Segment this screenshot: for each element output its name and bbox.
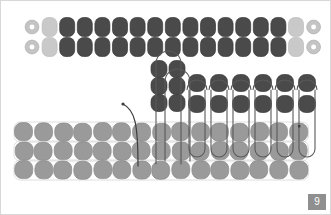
bottom-band-unit [54,142,72,160]
top-band-unit [95,18,110,37]
page-number-badge: 9 [308,194,326,210]
bottom-band-unit [270,123,288,141]
bottom-band-unit [231,161,249,179]
bottom-band-unit [133,161,151,179]
top-band-unit [95,38,110,57]
top-band-unit [289,18,304,37]
top-band-unit [148,18,163,37]
top-band-unit [289,38,304,57]
top-band-unit [77,18,92,37]
bottom-band-unit [54,161,72,179]
top-band-unit [113,38,128,57]
top-band-unit [42,18,57,37]
ring-unit-hole [30,25,35,30]
bottom-band-unit [55,123,73,141]
top-band-unit [77,38,92,57]
bottom-band-unit [94,123,112,141]
bottom-band-unit [74,161,92,179]
ring-unit-hole [311,45,316,50]
top-band-units [25,18,320,57]
bottom-band-unit [113,142,131,160]
bottom-band-unit [15,123,33,141]
top-band-unit [60,18,75,37]
bottom-band-unit [152,161,170,179]
ring-unit-hole [30,45,35,50]
bottom-band-unit [93,142,111,160]
top-band-unit [253,38,268,57]
bottom-band-units [15,123,308,180]
top-band-unit [201,38,216,57]
bottom-band-unit [251,123,269,141]
bottom-band-unit [153,123,171,141]
bottom-band-unit [113,123,131,141]
slide-canvas: 9 [0,0,331,215]
right-band-unit [277,75,294,92]
top-band-unit [271,18,286,37]
top-band-unit [165,38,180,57]
bottom-band-unit [132,142,150,160]
top-band-unit [130,18,145,37]
bottom-band-unit [250,142,268,160]
bottom-band-unit [15,142,33,160]
bottom-band-unit [113,161,131,179]
right-dark-band-units [189,75,316,113]
right-band-unit [189,96,206,113]
right-band-unit [299,96,316,113]
center-column-unit [169,78,185,95]
top-band-unit [60,38,75,57]
top-band-unit [271,38,286,57]
bottom-band-unit [192,123,210,141]
bottom-band-unit [15,161,33,179]
right-band-unit [255,75,272,92]
top-band-unit [113,18,128,37]
right-band-unit [255,96,272,113]
top-band-unit [130,38,145,57]
right-band-unit [233,75,250,92]
top-band-unit [236,38,251,57]
bottom-band-unit [94,161,112,179]
top-band-unit [253,18,268,37]
top-band-unit [165,18,180,37]
bottom-band-unit [192,161,210,179]
top-band-unit [218,18,233,37]
thread-start-dot-icon [121,102,124,105]
bottom-band-unit [152,142,170,160]
bottom-band-unit [191,142,209,160]
top-band-unit [183,38,198,57]
right-band-unit [299,75,316,92]
ring-unit-hole [311,25,316,30]
center-column-unit [151,61,167,78]
bottom-band-unit [35,123,53,141]
right-band-unit [211,96,228,113]
diagram-svg [1,1,331,215]
top-band-unit [42,38,57,57]
right-band-unit [233,96,250,113]
bottom-band-unit [74,142,92,160]
bottom-band-unit [211,161,229,179]
bottom-band-unit [270,161,288,179]
top-band-unit [218,38,233,57]
top-band-unit [236,18,251,37]
bottom-band-unit [290,161,308,179]
right-band-unit [211,75,228,92]
right-band-unit [277,96,294,113]
bottom-band-unit [35,161,53,179]
top-band-unit [183,18,198,37]
bottom-band-unit [34,142,52,160]
right-band-unit [189,75,206,92]
bottom-band-unit [270,142,288,160]
bottom-band-unit [211,123,229,141]
top-band-unit [201,18,216,37]
bottom-band-unit [250,161,268,179]
center-column-unit [169,95,185,112]
bottom-band-unit [74,123,92,141]
thread-end-marker-icon [298,125,300,127]
